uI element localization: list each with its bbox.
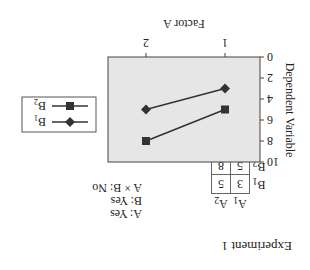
y-tick-label: 2 [267,71,273,85]
legend: B1B2 [22,97,96,132]
y-tick-label: 10 [267,155,279,169]
x-tick-label: 2 [143,36,149,50]
figure: Experiment 1 A1 A2 B1 3 5 B2 5 8 A: Yes … [0,0,310,270]
y-tick-label: 6 [267,113,273,127]
y-axis-label: Dependent Variable [283,63,297,158]
square-marker [142,137,150,145]
y-tick-label: 0 [267,50,273,64]
line-chart: Dependent Variable 0246810 12 Factor A B… [0,0,310,270]
plot-area [108,57,260,162]
y-tick-label: 4 [267,92,273,106]
square-marker [221,106,229,114]
y-tick-label: 8 [267,134,273,148]
x-axis-label: Factor A [163,17,205,31]
x-tick-label: 1 [222,36,228,50]
legend-square-marker [66,102,74,110]
